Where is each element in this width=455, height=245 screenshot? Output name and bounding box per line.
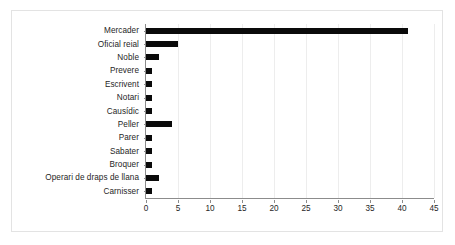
x-axis-ticklabel: 20 (269, 204, 278, 213)
x-axis-ticklabel: 45 (429, 204, 438, 213)
x-axis-ticklabels: 051015202530354045 (146, 200, 434, 216)
bar-row (146, 64, 434, 77)
x-axis-line (146, 198, 434, 199)
bar-row (146, 51, 434, 64)
bar-row (146, 158, 434, 171)
category-label: Prevere (12, 64, 143, 77)
x-axis-tickmark (338, 200, 339, 203)
bar-row (146, 131, 434, 144)
x-axis-tickmark (434, 200, 435, 203)
category-label: Mercader (12, 24, 143, 37)
x-axis-tickmark (178, 200, 179, 203)
bar (146, 162, 152, 168)
value-axis-line (145, 24, 146, 199)
category-label: Escrivent (12, 78, 143, 91)
x-axis-tickmark (210, 200, 211, 203)
bar-row (146, 78, 434, 91)
bar (146, 108, 152, 114)
bar-row (146, 185, 434, 198)
category-label: Operari de draps de llana (12, 171, 143, 184)
category-label: Oficial reial (12, 37, 143, 50)
category-label: Broquer (12, 158, 143, 171)
bar (146, 54, 159, 60)
bar (146, 188, 152, 194)
x-axis-tickmark (306, 200, 307, 203)
category-label: Noble (12, 51, 143, 64)
bar (146, 148, 152, 154)
x-axis-ticklabel: 30 (333, 204, 342, 213)
x-axis-tickmark (274, 200, 275, 203)
x-axis-ticklabel: 25 (301, 204, 310, 213)
bar (146, 121, 172, 127)
bar-row (146, 91, 434, 104)
bar-series (146, 24, 434, 198)
category-label: Peller (12, 118, 143, 131)
category-label: Sabater (12, 145, 143, 158)
plot-area (146, 24, 434, 198)
bar (146, 95, 152, 101)
bar-row (146, 118, 434, 131)
x-axis-tickmark (242, 200, 243, 203)
x-axis-ticklabel: 0 (144, 204, 149, 213)
bar (146, 175, 159, 181)
category-label: Notari (12, 91, 143, 104)
category-axis: MercaderOficial reialNoblePrevereEscrive… (12, 24, 143, 198)
category-label: Parer (12, 131, 143, 144)
x-axis-tickmark (370, 200, 371, 203)
bar (146, 81, 152, 87)
category-label: Carnisser (12, 185, 143, 198)
x-axis-ticklabel: 40 (397, 204, 406, 213)
bar-row (146, 171, 434, 184)
x-axis-tickmark (402, 200, 403, 203)
x-axis-ticklabel: 15 (237, 204, 246, 213)
bar-row (146, 104, 434, 117)
bar (146, 135, 152, 141)
category-label: Causídic (12, 104, 143, 117)
bar-row (146, 37, 434, 50)
gridline (434, 24, 435, 198)
chart-figure: MercaderOficial reialNoblePrevereEscrive… (0, 0, 455, 245)
x-axis-tickmark (146, 200, 147, 203)
bar-row (146, 145, 434, 158)
x-axis-ticklabel: 35 (365, 204, 374, 213)
x-axis-ticklabel: 5 (176, 204, 181, 213)
bar (146, 41, 178, 47)
bar-row (146, 24, 434, 37)
bar (146, 28, 408, 34)
x-axis-ticklabel: 10 (205, 204, 214, 213)
bar (146, 68, 152, 74)
